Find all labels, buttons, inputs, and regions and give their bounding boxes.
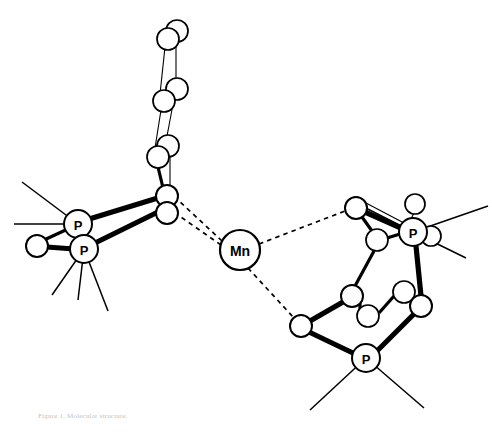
bond-mid-left-to-lower-ring-left: [310, 302, 343, 321]
atom-c-right-inner-top: [366, 229, 388, 251]
top-carbon-chain-bonds: [155, 42, 176, 192]
bond-inner-top-to-p-right: [387, 234, 400, 238]
atom-label-p-bottom-right: P: [362, 352, 371, 367]
dashed-bond-mn-to-right-top: [259, 211, 345, 244]
bond-p-bottom-to-lower-right: [376, 314, 414, 352]
bond-lower-ring-left-to-p-bottom: [309, 332, 355, 354]
coordination-bonds: [177, 199, 345, 318]
bond-mid-inner-to-mid-right: [379, 296, 394, 313]
bond-right-top-to-inner-top: [362, 217, 372, 231]
bond-p-right-to-lower-right: [416, 246, 421, 296]
atom-label-mn: Mn: [230, 243, 250, 259]
atom-label-p-right-upper: P: [409, 226, 418, 241]
chain-bond-top-left: [160, 47, 165, 94]
atom-c-right-mid-inner: [357, 305, 379, 327]
atom-c-chain-top-a: [157, 28, 179, 50]
atom-c-right-mid-left: [341, 285, 363, 307]
atom-label-p-left-lower: P: [80, 243, 89, 258]
atom-c-junction-lower: [156, 202, 178, 224]
atom-c-right-lower-right: [410, 295, 432, 317]
atom-c-left-terminal: [26, 235, 48, 257]
bond-inner-top-to-mid-left: [355, 251, 374, 286]
metal-center-group: Mn: [220, 230, 260, 270]
figure-root: P P P P Mn Figure 1. Molecular structure…: [0, 0, 492, 432]
bond-right-top-to-p-right: [365, 212, 401, 228]
molecular-structure-diagram: P P P P Mn: [0, 0, 492, 432]
dashed-bond-mn-to-lower-ring: [248, 268, 294, 318]
atom-c-right-p-up: [405, 194, 425, 214]
atom-c-left-lower-ring: [290, 315, 312, 337]
figure-caption: Figure 1. Molecular structure.: [38, 412, 128, 420]
left-ligand-skeleton: [44, 197, 161, 249]
atom-c-chain-low-a: [147, 146, 169, 168]
dashed-bond-mn-to-junction-lower: [178, 215, 221, 245]
carbon-atoms: [26, 20, 441, 337]
atom-c-right-top: [345, 197, 367, 219]
atom-c-chain-mid-a: [153, 90, 175, 112]
atom-label-p-left-upper: P: [74, 218, 83, 233]
